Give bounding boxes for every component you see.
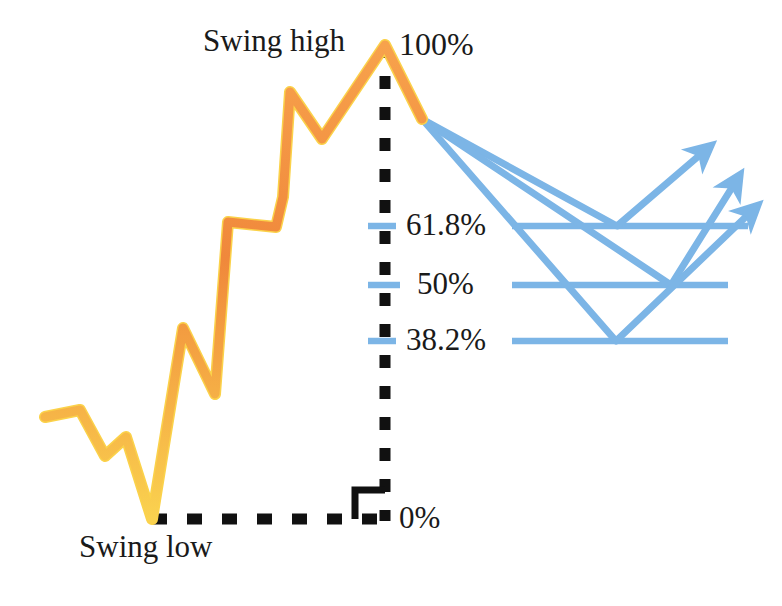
price-action-path (45, 45, 422, 519)
fib-label-50: 50% (417, 268, 474, 299)
fib-label-382: 38.2% (406, 324, 486, 355)
fib-label-0: 0% (399, 502, 440, 533)
fib-label-100: 100% (399, 28, 474, 60)
swing-high-label: Swing high (203, 25, 345, 56)
fibonacci-retracement-diagram: Swing high Swing low 100% 61.8% 50% 38.2… (0, 0, 782, 606)
price-action-line (45, 45, 422, 519)
swing-low-label: Swing low (79, 531, 213, 562)
fib-label-618: 61.8% (406, 209, 486, 240)
swing-range-measure (152, 45, 392, 521)
diagram-canvas (0, 0, 782, 606)
